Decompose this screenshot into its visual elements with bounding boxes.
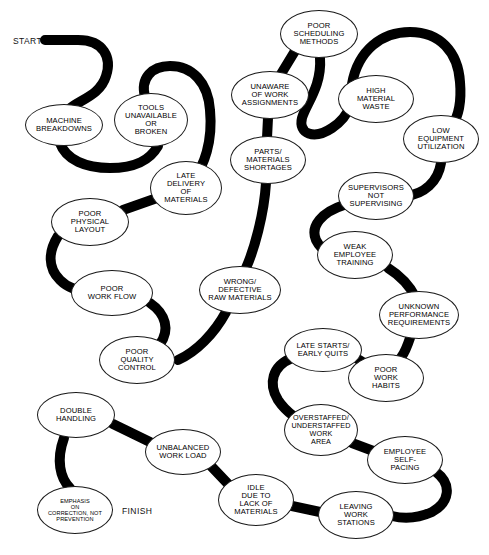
node-poor-physical-layout[interactable]: POOR PHYSICAL LAYOUT: [51, 198, 129, 246]
node-double-handling[interactable]: DOUBLE HANDLING: [37, 392, 115, 438]
node-idle-lack-materials[interactable]: IDLE DUE TO LACK OF MATERIALS: [218, 474, 294, 526]
node-label: LATE STARTS/ EARLY QUITS: [293, 342, 352, 358]
node-label: WRONG/ DEFECTIVE RAW MATERIALS: [205, 278, 274, 303]
node-layer: MACHINE BREAKDOWNSTOOLS UNAVAILABLE OR B…: [0, 0, 489, 555]
node-label: UNAWARE OF WORK ASSIGNMENTS: [239, 83, 301, 108]
node-label: DOUBLE HANDLING: [53, 407, 99, 423]
node-label: POOR PHYSICAL LAYOUT: [68, 210, 112, 235]
node-poor-scheduling[interactable]: POOR SCHEDULING METHODS: [280, 10, 358, 58]
node-late-delivery[interactable]: LATE DELIVERY OF MATERIALS: [150, 161, 222, 215]
node-label: EMPLOYEE SELF- PACING: [381, 448, 430, 473]
node-parts-materials-short[interactable]: PARTS/ MATERIALS SHORTAGES: [230, 136, 306, 184]
node-emphasis-on-correction[interactable]: EMPHASIS ON CORRECTION, NOT PREVENTION: [37, 486, 113, 534]
node-label: POOR QUALITY CONTROL: [115, 348, 159, 373]
node-poor-work-flow[interactable]: POOR WORK FLOW: [71, 270, 153, 316]
node-tools-unavailable[interactable]: TOOLS UNAVAILABLE OR BROKEN: [114, 93, 188, 147]
node-label: OVERSTAFFED/ UNDERSTAFFED WORK AREA: [289, 414, 354, 445]
node-label: POOR WORK FLOW: [85, 285, 140, 301]
node-label: LOW EQUIPMENT UTILIZATION: [415, 127, 468, 152]
node-late-starts-early-quits[interactable]: LATE STARTS/ EARLY QUITS: [284, 328, 362, 372]
node-high-material-waste[interactable]: HIGH MATERIAL WASTE: [338, 75, 414, 123]
diagram-canvas: MACHINE BREAKDOWNSTOOLS UNAVAILABLE OR B…: [0, 0, 489, 555]
node-label: LATE DELIVERY OF MATERIALS: [161, 172, 210, 205]
node-wrong-defective-raw[interactable]: WRONG/ DEFECTIVE RAW MATERIALS: [199, 266, 281, 314]
node-label: TOOLS UNAVAILABLE OR BROKEN: [122, 104, 180, 137]
node-supervisors-not-superv[interactable]: SUPERVISORS NOT SUPERVISING: [338, 172, 414, 220]
node-label: MACHINE BREAKDOWNS: [33, 117, 95, 133]
finish-label: FINISH: [122, 506, 152, 516]
node-leaving-work-stations[interactable]: LEAVING WORK STATIONS: [318, 491, 394, 539]
node-label: POOR WORK HABITS: [369, 366, 403, 391]
node-label: SUPERVISORS NOT SUPERVISING: [345, 184, 407, 209]
node-employee-self-pacing[interactable]: EMPLOYEE SELF- PACING: [367, 436, 443, 484]
node-label: WEAK EMPLOYEE TRAINING: [331, 243, 380, 268]
node-machine-breakdowns[interactable]: MACHINE BREAKDOWNS: [25, 104, 103, 146]
node-unaware-assignments[interactable]: UNAWARE OF WORK ASSIGNMENTS: [231, 71, 309, 119]
node-label: LEAVING WORK STATIONS: [334, 503, 378, 528]
node-label: POOR SCHEDULING METHODS: [291, 22, 348, 47]
node-low-equipment-util[interactable]: LOW EQUIPMENT UTILIZATION: [403, 115, 479, 163]
node-poor-work-habits[interactable]: POOR WORK HABITS: [348, 354, 424, 402]
node-label: EMPHASIS ON CORRECTION, NOT PREVENTION: [45, 498, 105, 522]
node-unknown-performance[interactable]: UNKNOWN PERFORMANCE REQUIREMENTS: [379, 291, 459, 339]
node-label: PARTS/ MATERIALS SHORTAGES: [241, 148, 295, 173]
node-label: UNBALANCED WORK LOAD: [154, 444, 213, 460]
start-label: START: [13, 36, 42, 46]
node-weak-employee-training[interactable]: WEAK EMPLOYEE TRAINING: [317, 231, 393, 279]
node-unbalanced-work-load[interactable]: UNBALANCED WORK LOAD: [145, 429, 221, 475]
node-overstaffed-understaffed[interactable]: OVERSTAFFED/ UNDERSTAFFED WORK AREA: [284, 404, 358, 456]
node-label: HIGH MATERIAL WASTE: [354, 87, 398, 112]
node-poor-quality-control[interactable]: POOR QUALITY CONTROL: [99, 336, 175, 384]
node-label: IDLE DUE TO LACK OF MATERIALS: [231, 484, 280, 517]
node-label: UNKNOWN PERFORMANCE REQUIREMENTS: [385, 303, 453, 328]
